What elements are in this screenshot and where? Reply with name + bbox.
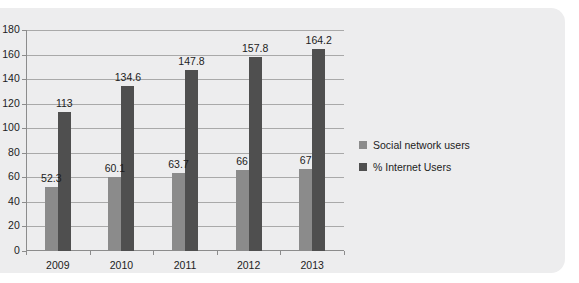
legend-swatch-icon (359, 163, 367, 171)
chart-legend: Social network users% Internet Users (359, 134, 470, 178)
y-tick-label: 180 (0, 23, 20, 35)
y-tick-label: 140 (0, 72, 20, 84)
y-tick-label: 80 (0, 146, 20, 158)
bar (236, 170, 249, 251)
legend-item[interactable]: Social network users (359, 134, 470, 156)
x-tick-label: 2013 (282, 259, 342, 271)
gridline (26, 30, 344, 31)
x-tick-mark (153, 251, 154, 255)
bar-value-label: 63.7 (156, 158, 202, 170)
bar-value-label: 66 (219, 155, 265, 167)
x-tick-mark (26, 251, 27, 255)
bar-value-label: 147.8 (169, 55, 215, 67)
y-tick-label: 0 (0, 244, 20, 256)
bar-value-label: 67 (283, 154, 329, 166)
x-tick-label: 2010 (91, 259, 151, 271)
legend-swatch-icon (359, 141, 367, 149)
bar (299, 169, 312, 251)
bar-value-label: 157.8 (232, 42, 278, 54)
y-tick-label: 100 (0, 121, 20, 133)
bar (312, 49, 325, 251)
bar-value-label: 164.2 (296, 34, 342, 46)
y-tick-label: 40 (0, 195, 20, 207)
x-tick-mark (344, 251, 345, 255)
bar (108, 177, 121, 251)
chart-figure: 020406080100120140160180 200920102011201… (0, 0, 579, 283)
x-tick-label: 2012 (219, 259, 279, 271)
y-tick-label: 160 (0, 48, 20, 60)
y-axis-line (26, 30, 27, 251)
y-tick-label: 120 (0, 97, 20, 109)
bar-value-label: 60.1 (92, 162, 138, 174)
legend-label: Social network users (373, 139, 470, 151)
legend-label: % Internet Users (373, 161, 451, 173)
y-tick-label: 20 (0, 219, 20, 231)
chart-panel: 020406080100120140160180 200920102011201… (0, 8, 565, 273)
x-tick-label: 2011 (155, 259, 215, 271)
bar-value-label: 52.3 (28, 172, 74, 184)
x-tick-mark (90, 251, 91, 255)
bar-value-label: 113 (41, 97, 87, 109)
bar (172, 173, 185, 251)
x-tick-mark (280, 251, 281, 255)
bar-value-label: 134.6 (105, 71, 151, 83)
y-tick-label: 60 (0, 170, 20, 182)
x-tick-mark (217, 251, 218, 255)
x-tick-label: 2009 (28, 259, 88, 271)
legend-item[interactable]: % Internet Users (359, 156, 470, 178)
bar (45, 187, 58, 251)
